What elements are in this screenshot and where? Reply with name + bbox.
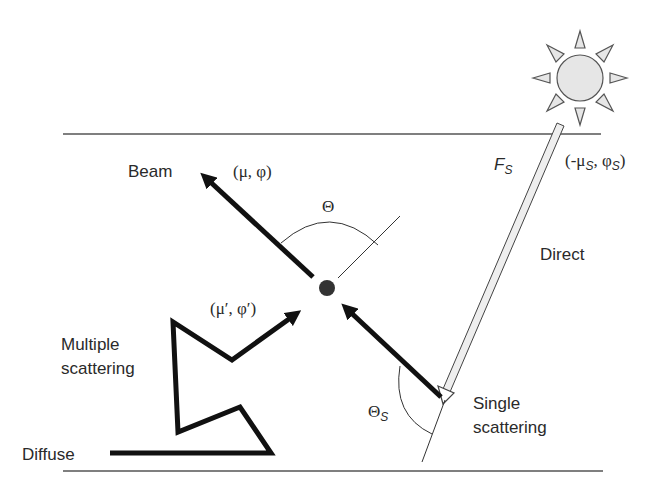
single-scattering-label-line2: scattering <box>473 419 547 436</box>
diffuse-label: Diffuse <box>22 446 75 463</box>
beam-label: Beam <box>128 163 172 180</box>
scattering-particle-icon <box>319 280 335 296</box>
theta-s-subscript: S <box>380 410 388 424</box>
theta-label: Θ <box>322 198 334 215</box>
multiple-scattering-path <box>110 314 296 453</box>
solar-flux-symbol: F <box>494 155 504 174</box>
direct-label: Direct <box>540 246 584 263</box>
solar-direction-sub2: S <box>612 159 620 173</box>
single-scattering-arrow <box>346 308 441 397</box>
beam-arrow <box>205 177 313 277</box>
single-scattering-label-line1: Single <box>473 395 520 412</box>
theta-arc <box>281 222 378 245</box>
incoming-direction-label: (μ′, φ′) <box>210 300 256 317</box>
solar-direction-prefix: (-μ <box>565 151 585 170</box>
theta-s-symbol: Θ <box>368 402 380 421</box>
solar-flux-subscript: S <box>504 163 512 177</box>
solar-direction-suffix: ) <box>620 151 626 170</box>
beam-direction-label: (μ, φ) <box>233 163 272 180</box>
solar-direction-label: (-μS, φS) <box>565 152 625 169</box>
solar-flux-label: FS <box>494 156 512 173</box>
solar-direction-sub1: S <box>585 159 593 173</box>
sun-icon <box>533 31 627 125</box>
multiple-scattering-label-line1: Multiple <box>61 336 120 353</box>
multiple-scattering-label-line2: scattering <box>61 360 135 377</box>
theta-s-label: ΘS <box>368 403 388 420</box>
solar-direction-mid: , φ <box>593 151 611 170</box>
